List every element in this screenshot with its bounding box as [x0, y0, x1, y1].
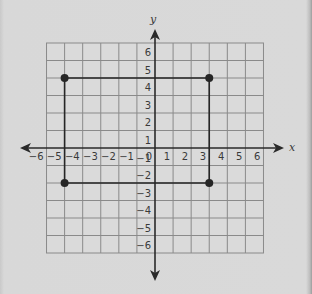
coordinate-plane-figure: x y −6−5−4−3−2−10123456654321−1−2−3−4−5−… [0, 0, 312, 294]
x-tick-label: −4 [65, 151, 80, 162]
y-tick-label: 3 [145, 100, 151, 111]
x-tick-label: 1 [164, 151, 170, 162]
x-tick-label: −3 [83, 151, 98, 162]
vertex-point [205, 179, 213, 187]
x-tick-label: −6 [29, 151, 44, 162]
x-tick-label: 3 [200, 151, 206, 162]
y-tick-label: −2 [136, 170, 151, 181]
x-tick-label: −2 [101, 151, 116, 162]
x-tick-label: 2 [182, 151, 188, 162]
y-tick-label: 5 [145, 65, 151, 76]
x-tick-label: 6 [254, 151, 260, 162]
y-tick-label: 2 [145, 117, 151, 128]
vertex-point [61, 74, 69, 82]
y-tick-label: 4 [145, 82, 151, 93]
y-tick-label: −1 [136, 153, 151, 164]
vertex-point [205, 74, 213, 82]
coordinate-grid: x y −6−5−4−3−2−10123456654321−1−2−3−4−5−… [0, 0, 312, 294]
x-tick-label: 5 [236, 151, 242, 162]
vertex-point [61, 179, 69, 187]
x-tick-label: −1 [119, 151, 134, 162]
y-tick-label: −5 [136, 223, 151, 234]
y-tick-label: −4 [136, 205, 151, 216]
x-tick-label: 4 [218, 151, 224, 162]
y-tick-label: 6 [145, 47, 151, 58]
y-axis-label: y [149, 13, 157, 26]
y-tick-label: −3 [136, 188, 151, 199]
x-tick-label: −5 [47, 151, 62, 162]
x-axis-label: x [289, 141, 296, 154]
y-tick-label: 1 [145, 135, 151, 146]
y-tick-label: −6 [136, 240, 151, 251]
